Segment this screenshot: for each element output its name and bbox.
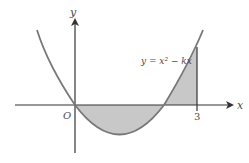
function-graph: y x O 3 y = x² − kx <box>0 0 249 163</box>
tick-label-3: 3 <box>194 111 200 122</box>
origin-label: O <box>63 110 71 121</box>
y-axis-label: y <box>69 6 77 19</box>
x-axis-label: x <box>237 99 244 112</box>
function-label: y = x² − kx <box>140 56 192 66</box>
